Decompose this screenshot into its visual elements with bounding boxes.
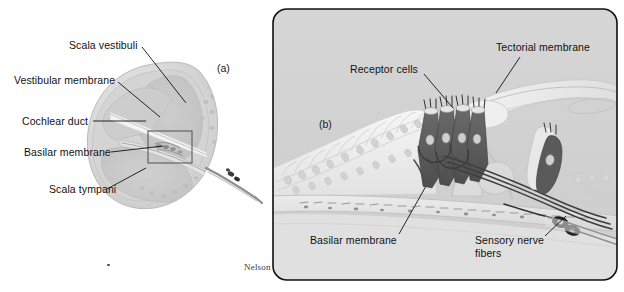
print-speck: [107, 264, 110, 266]
panel-b-letter: (b): [319, 118, 332, 130]
panel-a-letter: (a): [217, 62, 230, 74]
label-sensory-nerve-fibers-line2: fibers: [475, 247, 501, 259]
figure-root: Scala vestibuli Vestibular membrane Coch…: [0, 0, 624, 292]
label-scala-vestibuli: Scala vestibuli: [69, 39, 138, 51]
label-basilar-membrane-b: Basilar membrane: [310, 234, 397, 246]
label-sensory-nerve-fibers-line1: Sensory nerve: [475, 234, 544, 246]
label-basilar-membrane-a: Basilar membrane: [24, 146, 111, 158]
publisher-credit: Nelson: [244, 262, 271, 272]
label-cochlear-duct: Cochlear duct: [22, 115, 88, 127]
label-scala-tympani: Scala tympani: [49, 183, 116, 195]
label-vestibular-membrane: Vestibular membrane: [14, 74, 115, 86]
label-tectorial-membrane: Tectorial membrane: [496, 41, 590, 53]
label-receptor-cells: Receptor cells: [350, 63, 418, 75]
